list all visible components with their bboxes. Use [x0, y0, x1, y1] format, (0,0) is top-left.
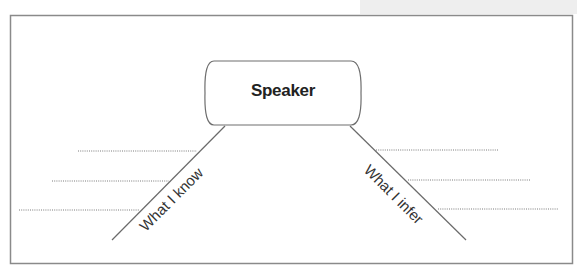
speaker-diagram: Speaker What I know What I infer [0, 0, 577, 270]
speaker-label: Speaker [251, 81, 316, 100]
diagram-frame [11, 16, 573, 264]
